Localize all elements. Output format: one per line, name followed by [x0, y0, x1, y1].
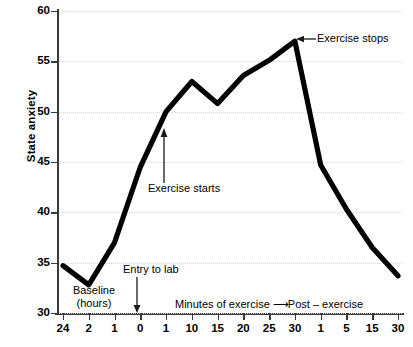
right-arrow-icon: ⟶ — [273, 298, 288, 310]
annotation-post-exercise: Post – exercise — [288, 298, 363, 310]
annotation-exercise-stops: Exercise stops — [317, 32, 389, 45]
exercise-starts-arrow — [161, 128, 168, 183]
entry-to-lab-arrow — [134, 277, 141, 313]
annotation-minutes-of-exercise: Minutes of exercise ⟶Post – exercise — [175, 298, 363, 311]
annotation-baseline: Baseline (hours) — [62, 284, 126, 309]
exercise-stops-arrow — [296, 36, 316, 42]
state-anxiety-line-chart: State anxiety 60 55 50 45 40 35 30 24210… — [0, 0, 413, 347]
annotation-exercise-starts: Exercise starts — [148, 182, 220, 195]
annotation-entry-to-lab: Entry to lab — [123, 263, 179, 276]
annotation-minutes-prefix: Minutes of exercise — [175, 298, 273, 310]
annotation-baseline-line2: (hours) — [62, 297, 126, 310]
data-line — [63, 41, 398, 285]
annotation-baseline-line1: Baseline — [62, 284, 126, 297]
